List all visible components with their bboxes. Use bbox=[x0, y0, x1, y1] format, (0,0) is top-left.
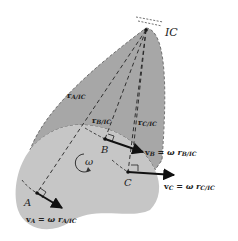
point-c-label: C bbox=[124, 177, 132, 188]
ic-label: IC bbox=[164, 26, 178, 39]
omega-label: ω bbox=[85, 156, 93, 167]
v-c-equation: vC = ω rC/IC bbox=[163, 181, 215, 191]
point-a-label: A bbox=[23, 197, 31, 208]
point-b-label: B bbox=[100, 144, 108, 155]
ic-diagram: ω IC rA/IC rB/IC rC/IC A B C vA = ω rA/I… bbox=[0, 0, 238, 241]
ic-ground-symbol bbox=[136, 17, 163, 26]
